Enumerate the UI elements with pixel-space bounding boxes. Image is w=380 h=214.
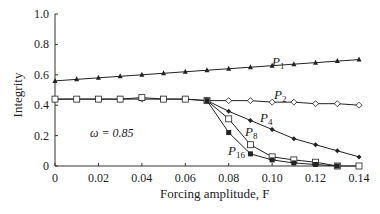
x-axis-label: Forcing amplitude, F <box>160 186 269 201</box>
y-tick-label: 0.2 <box>34 129 49 143</box>
axes: 00.020.040.060.080.100.120.1400.20.40.60… <box>34 7 370 185</box>
annotation-omega: ω = 0.85 <box>90 126 134 140</box>
series-label-p4: P4 <box>259 110 273 127</box>
series-label-p1: P1 <box>271 54 284 71</box>
x-tick-label: 0.02 <box>88 171 109 185</box>
series-labels: P1P2P4P8P16 <box>227 54 286 160</box>
series-p16 <box>205 98 340 168</box>
x-tick-label: 0.08 <box>218 171 239 185</box>
series-label-p16: P16 <box>227 143 245 160</box>
series-group <box>52 57 362 169</box>
y-tick-label: 1.0 <box>34 7 49 21</box>
y-tick-label: 0 <box>43 159 49 173</box>
x-tick-label: 0 <box>52 171 58 185</box>
x-tick-label: 0.12 <box>305 171 326 185</box>
line-chart: 00.020.040.060.080.100.120.1400.20.40.60… <box>0 0 380 214</box>
y-axis-label: Integrity <box>10 72 25 117</box>
series-p1 <box>53 57 362 83</box>
x-tick-label: 0.10 <box>262 171 283 185</box>
series-label-p2: P2 <box>273 87 286 104</box>
y-tick-label: 0.6 <box>34 68 49 82</box>
y-tick-label: 0.4 <box>34 98 49 112</box>
x-tick-label: 0.06 <box>175 171 196 185</box>
x-tick-label: 0.14 <box>349 171 370 185</box>
y-tick-label: 0.8 <box>34 37 49 51</box>
x-tick-label: 0.04 <box>131 171 152 185</box>
series-label-p8: P8 <box>244 124 258 141</box>
